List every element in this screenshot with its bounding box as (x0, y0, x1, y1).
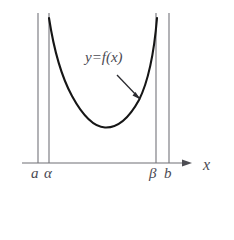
axis-label-beta: β (149, 166, 156, 181)
axis-label-alpha: α (44, 166, 52, 181)
axis-label-a: a (31, 166, 39, 181)
function-label: y=f(x) (85, 50, 123, 65)
axis-label-b: b (164, 166, 172, 181)
x-axis-label: x (203, 157, 210, 173)
